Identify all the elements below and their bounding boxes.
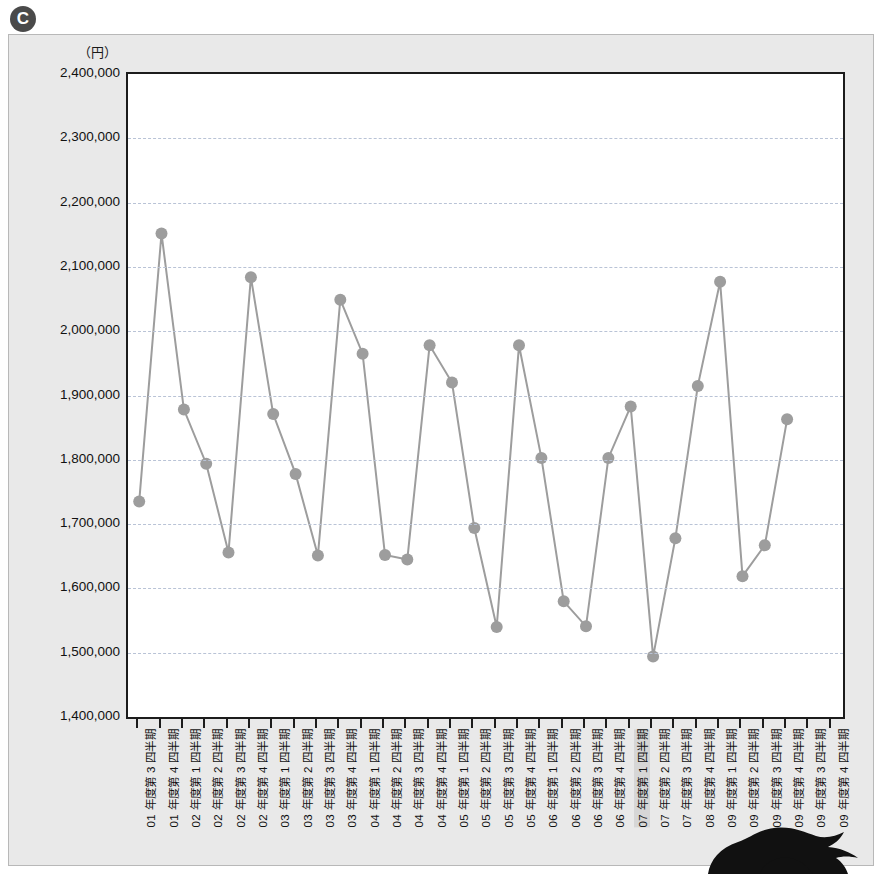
x-tick [226,719,228,728]
x-tick-label: 03 年度第 1 四半期 [276,729,292,827]
data-point-marker [133,496,145,508]
data-point-marker [535,452,547,464]
x-axis-ticks [126,719,845,728]
data-point-marker [379,549,391,561]
y-tick-label: 1,400,000 [60,708,120,723]
x-tick [159,719,161,728]
x-tick [203,719,205,728]
x-tick [806,719,808,728]
data-point-marker [156,228,168,240]
data-point-marker [446,377,458,389]
plot-area [126,72,845,719]
x-tick-label: 02 年度第 3 四半期 [232,729,248,827]
x-tick [427,719,429,728]
x-tick [538,719,540,728]
y-tick-label: 1,800,000 [60,450,120,465]
x-tick [784,719,786,728]
data-point-marker [781,413,793,425]
x-tick-label: 01 年度第 3 四半期 [142,729,158,827]
x-tick-label: 09 年度第 3 四半期 [812,729,828,827]
gridline [128,331,843,332]
x-tick-label: 04 年度第 4 四半期 [433,729,449,827]
data-point-marker [424,339,436,351]
data-point-marker [602,452,614,464]
x-tick-label: 04 年度第 1 四半期 [366,729,382,827]
x-tick [650,719,652,728]
x-tick-label: 09 年度第 3 四半期 [768,729,784,827]
x-tick [382,719,384,728]
y-tick-label: 1,500,000 [60,643,120,658]
x-tick-label: 03 年度第 3 四半期 [321,729,337,827]
data-point-marker [513,339,525,351]
data-point-marker [625,400,637,412]
x-tick [270,719,272,728]
x-tick-label: 06 年度第 1 四半期 [544,729,560,827]
x-tick [762,719,764,728]
y-tick-label: 1,600,000 [60,579,120,594]
data-point-marker [334,294,346,306]
data-point-marker [737,570,749,582]
data-point-marker [312,550,324,562]
x-tick-label: 07 年度第 2 四半期 [656,729,672,827]
x-tick [404,719,406,728]
x-tick [449,719,451,728]
x-tick-label: 04 年度第 3 四半期 [410,729,426,827]
y-axis-tick-labels: 2,400,0002,300,0002,200,0002,100,0002,00… [34,72,120,719]
data-point-marker [759,539,771,551]
x-tick-label: 07 年度第 1 四半期 [634,729,650,827]
data-point-marker [714,276,726,288]
x-tick-label: 02 年度第 4 四半期 [254,729,270,827]
x-tick-label: 01 年度第 4 四半期 [165,729,181,827]
data-point-marker [290,468,302,480]
y-tick-label: 2,000,000 [60,322,120,337]
x-tick [829,719,831,728]
gridline [128,138,843,139]
y-tick-label: 2,300,000 [60,129,120,144]
x-tick-label: 05 年度第 3 四半期 [500,729,516,827]
x-tick [605,719,607,728]
x-tick-label: 04 年度第 2 四半期 [388,729,404,827]
x-tick [360,719,362,728]
data-point-marker [178,404,190,416]
x-tick [136,719,138,728]
x-axis-tick-labels: 01 年度第 3 四半期01 年度第 4 四半期02 年度第 1 四半期02 年… [126,729,845,861]
gridline [128,203,843,204]
x-tick-label: 07 年度第 3 四半期 [678,729,694,827]
data-point-marker [267,408,279,420]
x-tick [516,719,518,728]
x-tick-label: 05 年度第 4 四半期 [522,729,538,827]
x-tick-label: 02 年度第 2 四半期 [209,729,225,827]
data-point-marker [558,595,570,607]
data-point-marker [692,380,704,392]
gridline [128,460,843,461]
x-tick [717,719,719,728]
x-tick [293,719,295,728]
chart-page: C （円） 2,400,0002,300,0002,200,0002,100,0… [0,0,882,874]
x-tick [583,719,585,728]
x-tick [628,719,630,728]
x-tick-label: 05 年度第 2 四半期 [477,729,493,827]
x-tick [695,719,697,728]
x-tick-label: 06 年度第 3 四半期 [589,729,605,827]
x-tick-label: 09 年度第 2 四半期 [745,729,761,827]
y-tick-label: 1,900,000 [60,386,120,401]
x-tick [337,719,339,728]
data-point-marker [491,621,503,633]
x-tick-label: 08 年度第 4 四半期 [701,729,717,827]
x-tick [181,719,183,728]
data-point-marker [245,271,257,283]
x-tick [494,719,496,728]
gridline [128,653,843,654]
x-tick [739,719,741,728]
x-tick [471,719,473,728]
data-point-marker [401,554,413,566]
x-tick [561,719,563,728]
y-tick-label: 2,100,000 [60,257,120,272]
x-tick-label: 03 年度第 4 四半期 [343,729,359,827]
gridline [128,524,843,525]
x-tick-label: 03 年度第 2 四半期 [299,729,315,827]
gridline [128,588,843,589]
data-point-marker [357,348,369,360]
data-point-marker [223,546,235,558]
x-tick-label: 09 年度第 4 四半期 [790,729,806,827]
